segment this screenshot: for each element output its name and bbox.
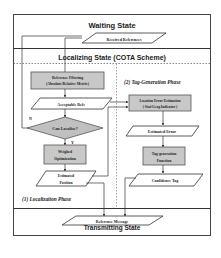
estimated-position-node: Estimated Position <box>36 171 96 186</box>
weighed-optimization-label-2: Optimization <box>54 157 76 161</box>
reference-message-node: Reference Message <box>62 216 163 225</box>
estimated-error-node: Estimated Error <box>126 126 199 136</box>
estimated-error-label: Estimated Error <box>148 129 176 134</box>
confidence-tag-node: Confidence Tag <box>129 174 203 186</box>
reference-filtering-label-1: Reference Filtering <box>52 76 83 80</box>
estimated-position-label-2: Position <box>59 181 73 185</box>
cota-flow-diagram: Waiting State Localizing State (COTA Sch… <box>0 0 221 258</box>
localizing-state-title: Localizing State (COTA Scheme) <box>58 54 166 62</box>
no-branch-label: N <box>29 116 32 121</box>
waiting-state-title: Waiting State <box>88 21 135 30</box>
tag-generation-function-node: Tag-generation Function <box>143 147 185 165</box>
location-error-estimation-node: Location Error Estimation ( Stat/Geog In… <box>129 95 191 111</box>
location-error-estimation-label-1: Location Error Estimation <box>140 99 181 103</box>
reference-filtering-node: Reference Filtering (Absolute/Relative M… <box>31 72 104 89</box>
estimated-position-label-1: Estimated <box>58 174 75 178</box>
acceptable-refs-node: Acceptable Refs <box>31 98 112 109</box>
confidence-tag-label: Confidence Tag <box>152 178 179 183</box>
reference-filtering-label-2: (Absolute/Relative Metric) <box>46 82 90 86</box>
location-error-estimation-label-2: ( Stat/Geog Indicator ) <box>143 105 178 109</box>
weighed-optimization-label-1: Weighed <box>58 150 73 154</box>
received-references-node: Received References <box>82 33 166 43</box>
reference-message-label: Reference Message <box>96 219 129 224</box>
localization-phase-label: (1) Localization Phase <box>22 196 72 203</box>
tag-generation-function-label-2: Function <box>157 159 172 163</box>
acceptable-refs-label: Acceptable Refs <box>57 102 85 107</box>
can-localize-label: Can Localize? <box>52 126 77 131</box>
tag-generation-phase-label: (2) Tag-Generation Phase <box>124 79 181 86</box>
edge-position-to-error-estimation <box>92 107 128 176</box>
tag-generation-function-label-1: Tag-generation <box>152 152 177 156</box>
yes-branch-label: Y <box>71 140 74 145</box>
can-localize-decision: Can Localize? <box>27 117 103 139</box>
received-references-label: Received References <box>107 37 142 42</box>
edge-position-to-reference-message <box>86 183 104 216</box>
weighed-optimization-node: Weighed Optimization <box>44 145 86 164</box>
